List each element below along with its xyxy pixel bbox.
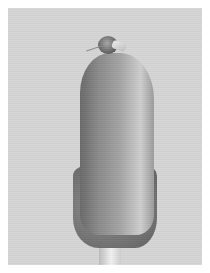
photo-frame xyxy=(8,8,202,265)
specimen-body xyxy=(80,53,154,235)
